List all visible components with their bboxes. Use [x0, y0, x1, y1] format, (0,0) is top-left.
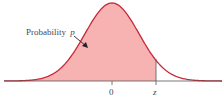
probability-var: p [69, 27, 75, 37]
normal-curve-figure: 0 z Probability p [0, 0, 223, 102]
tick-label-z: z [152, 87, 157, 97]
probability-label: Probability p [26, 27, 75, 37]
probability-text: Probability [26, 27, 66, 37]
tick-label-zero: 0 [109, 87, 114, 97]
